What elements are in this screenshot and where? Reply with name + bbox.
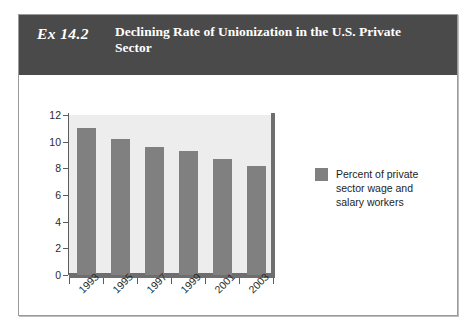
y-axis-tick-mark xyxy=(63,195,68,196)
y-axis-tick-mark xyxy=(63,115,68,116)
bar xyxy=(111,139,130,275)
bar xyxy=(77,128,96,275)
bar xyxy=(247,166,266,275)
x-axis-tick-mark xyxy=(171,278,172,284)
y-axis-tick-label: 12 xyxy=(35,109,61,121)
y-axis-tick-label: 10 xyxy=(35,136,61,148)
y-axis-line xyxy=(68,113,69,275)
y-axis-tick-label: 8 xyxy=(35,162,61,174)
x-axis-tick-mark xyxy=(69,278,70,284)
exhibit-title: Declining Rate of Unionization in the U.… xyxy=(115,24,405,56)
exhibit-frame: Ex 14.2 Declining Rate of Unionization i… xyxy=(18,14,458,316)
y-axis-tick-mark xyxy=(63,222,68,223)
y-axis-tick-label: 2 xyxy=(35,242,61,254)
y-axis-tick-mark xyxy=(63,168,68,169)
y-axis-tick-mark xyxy=(63,142,68,143)
x-axis-tick-mark xyxy=(137,278,138,284)
y-axis-tick-mark xyxy=(63,275,68,276)
chart-legend: Percent of private sector wage and salar… xyxy=(315,167,445,209)
exhibit-number: Ex 14.2 xyxy=(37,24,89,43)
y-axis-tick-label: 0 xyxy=(35,269,61,281)
bar xyxy=(179,151,198,275)
legend-label: Percent of private sector wage and salar… xyxy=(336,167,440,209)
x-axis-tick-mark xyxy=(103,278,104,284)
plot-area xyxy=(69,115,273,275)
x-axis-tick-mark xyxy=(273,278,274,284)
y-axis-tick-label: 6 xyxy=(35,189,61,201)
bar xyxy=(213,159,232,275)
bar-chart: 024681012 199319951997199920012003 Perce… xyxy=(19,75,457,317)
y-axis-labels: 024681012 xyxy=(29,75,61,317)
exhibit-header: Ex 14.2 Declining Rate of Unionization i… xyxy=(19,15,457,75)
x-axis-tick-mark xyxy=(205,278,206,284)
y-axis-tick-mark xyxy=(63,248,68,249)
x-axis-tick-mark xyxy=(239,278,240,284)
legend-swatch-icon xyxy=(315,168,328,181)
bar xyxy=(145,147,164,275)
y-axis-tick-label: 4 xyxy=(35,216,61,228)
plot-right-wall xyxy=(271,113,275,278)
